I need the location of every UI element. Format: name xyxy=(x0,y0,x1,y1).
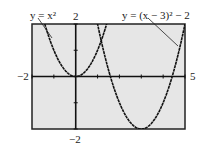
x-min-label: −2 xyxy=(17,71,29,82)
curve-label-shifted-parabola: y = (x − 3)² − 2 xyxy=(122,10,190,21)
y-min-label: −2 xyxy=(69,134,81,145)
y-max-label: 2 xyxy=(73,11,79,22)
curve-label-parabola: y = x² xyxy=(30,10,56,21)
x-max-label: 5 xyxy=(190,71,196,82)
graph-window xyxy=(0,0,207,150)
